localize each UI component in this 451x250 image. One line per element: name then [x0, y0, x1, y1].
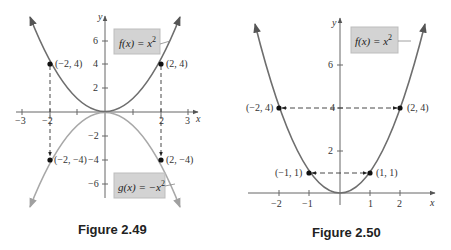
figure-caption: Figure 2.50	[312, 225, 381, 240]
y-tick-label: 4	[330, 103, 335, 113]
point-neg2-4	[276, 105, 281, 110]
point-label: (1, 1)	[376, 168, 398, 178]
x-axis-label: x	[196, 114, 200, 124]
point-label: (2, −4)	[166, 155, 193, 165]
point-label: (−1, 1)	[275, 168, 302, 178]
y-tick-label: −2	[88, 131, 99, 141]
point-2-neg4	[158, 157, 163, 162]
point-neg1-1	[306, 170, 311, 175]
y-tick-label: 6	[93, 36, 98, 46]
figure-2-49	[16, 16, 198, 207]
x-tick-label: 1	[368, 199, 373, 209]
point-2-4	[158, 61, 163, 66]
x-tick-label: −2	[42, 116, 53, 126]
figure-caption: Figure 2.49	[78, 222, 147, 237]
y-tick-label: 2	[93, 83, 98, 93]
x-tick-label: −2	[271, 199, 282, 209]
y-tick-label: 6	[328, 60, 333, 70]
x-tick-label: 2	[159, 116, 164, 126]
point-2-4	[397, 105, 402, 110]
point-label: (−2, −4)	[54, 155, 87, 165]
point-label: (−2, 4)	[55, 59, 82, 69]
point-1-1	[367, 170, 372, 175]
f-function-label: f(x) = x2	[355, 34, 392, 47]
y-tick-label: 2	[328, 146, 333, 156]
y-tick-label: 4	[93, 59, 98, 69]
x-axis-label: x	[430, 198, 434, 208]
point-neg2-neg4	[47, 157, 52, 162]
x-tick-label: −1	[302, 199, 313, 209]
point-label: (2, 4)	[407, 103, 429, 113]
y-axis-label: y	[98, 12, 102, 22]
x-tick-label: 3	[185, 116, 190, 126]
x-tick-label: −3	[15, 116, 26, 126]
g-function-label: g(x) = −x2	[118, 180, 165, 193]
x-tick-label: 2	[397, 199, 402, 209]
y-tick-label: −4	[88, 155, 99, 165]
point-label: (−2, 4)	[246, 103, 273, 113]
y-tick-label: −6	[88, 179, 99, 189]
point-label: (2, 4)	[166, 59, 188, 69]
f-function-label: f(x) = x2	[119, 36, 156, 49]
point-neg2-4	[47, 61, 52, 66]
y-axis-label: y	[332, 18, 336, 28]
